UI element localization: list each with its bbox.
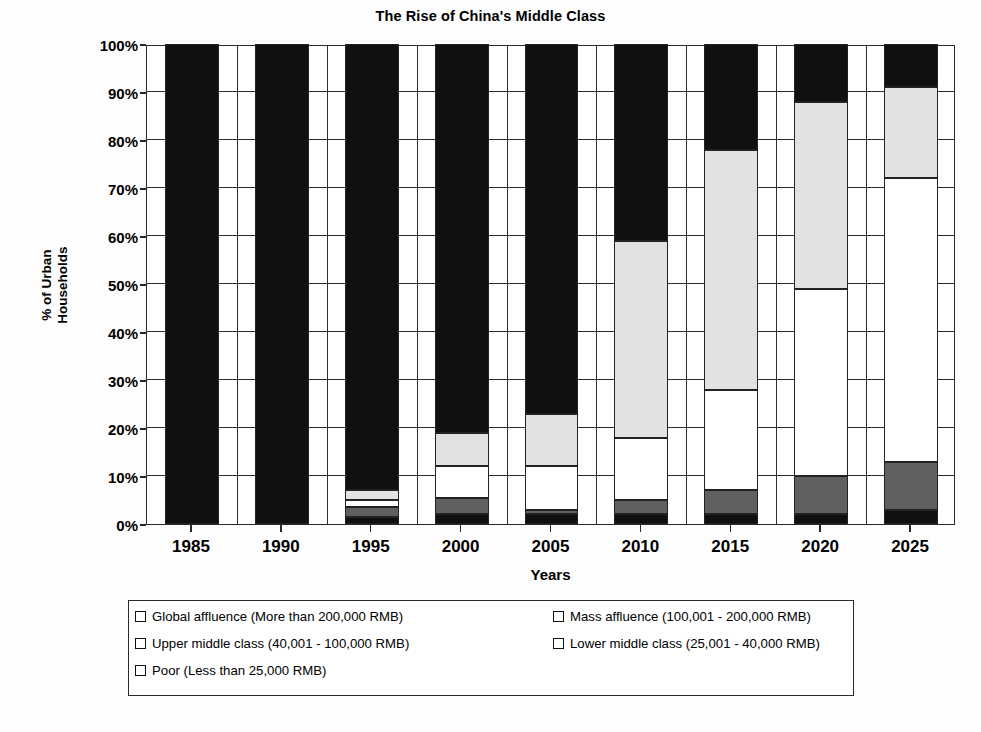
bars-layer	[147, 46, 954, 524]
x-axis-tick-label: 2000	[442, 537, 480, 557]
x-axis-tick-label: 1995	[352, 537, 390, 557]
bar-segment-upper_middle[interactable]	[884, 178, 938, 461]
bar-segment-poor[interactable]	[704, 514, 758, 524]
x-axis-tick-mark	[190, 525, 192, 532]
bar-segment-global_affluence[interactable]	[704, 44, 758, 150]
y-axis-tick-mark	[140, 284, 146, 286]
bar-segment-global_affluence[interactable]	[614, 44, 668, 241]
bar-segment-poor[interactable]	[884, 510, 938, 524]
bar-stack[interactable]	[704, 44, 758, 524]
legend-swatch-icon	[553, 638, 564, 649]
bar-segment-mass_affluence[interactable]	[704, 490, 758, 514]
bar-segment-mass_affluence[interactable]	[614, 500, 668, 514]
bar-segment-lower_middle[interactable]	[345, 490, 399, 500]
bar-segment-mass_affluence[interactable]	[345, 507, 399, 517]
legend-item-label: Upper middle class (40,001 - 100,000 RMB…	[152, 636, 409, 651]
bar-segment-global_affluence[interactable]	[794, 44, 848, 102]
bar-segment-lower_middle[interactable]	[704, 150, 758, 390]
bar-segment-lower_middle[interactable]	[614, 241, 668, 438]
y-axis-tick-label: 0%	[116, 517, 138, 534]
bar-stack[interactable]	[165, 44, 219, 524]
bar-segment-mass_affluence[interactable]	[525, 510, 579, 515]
legend-item-label: Lower middle class (25,001 - 40,000 RMB)	[570, 636, 820, 651]
y-axis-tick-label: 60%	[108, 229, 138, 246]
y-axis-title: % of UrbanHouseholds	[39, 210, 72, 360]
bar-stack[interactable]	[255, 44, 309, 524]
bar-stack[interactable]	[345, 44, 399, 524]
y-axis-tick-label: 100%	[100, 37, 138, 54]
y-axis-tick-mark	[140, 380, 146, 382]
x-axis-tick-mark	[460, 525, 462, 532]
y-axis-tick-label: 20%	[108, 421, 138, 438]
legend-swatch-icon	[135, 638, 146, 649]
x-axis-tick-label: 2025	[891, 537, 929, 557]
x-axis-tick-mark	[640, 525, 642, 532]
bar-segment-mass_affluence[interactable]	[435, 498, 489, 515]
chart-container: The Rise of China's Middle Class % of Ur…	[0, 0, 981, 732]
bar-stack[interactable]	[525, 44, 579, 524]
x-axis-title: Years	[146, 566, 955, 583]
bar-segment-poor[interactable]	[794, 514, 848, 524]
x-axis-tick-mark	[819, 525, 821, 532]
legend-item-label: Mass affluence (100,001 - 200,000 RMB)	[570, 609, 811, 624]
y-axis-tick-label: 90%	[108, 85, 138, 102]
y-axis-tick-mark	[140, 92, 146, 94]
bar-segment-upper_middle[interactable]	[614, 438, 668, 500]
legend-swatch-icon	[135, 665, 146, 676]
x-axis-tick-label: 1990	[262, 537, 300, 557]
legend-swatch-icon	[135, 611, 146, 622]
bar-segment-lower_middle[interactable]	[435, 433, 489, 467]
bar-segment-poor[interactable]	[614, 514, 668, 524]
bar-segment-upper_middle[interactable]	[345, 500, 399, 507]
legend-item[interactable]: Lower middle class (25,001 - 40,000 RMB)	[553, 636, 820, 651]
bar-segment-poor[interactable]	[165, 44, 219, 524]
bar-stack[interactable]	[435, 44, 489, 524]
y-axis-tick-mark	[140, 140, 146, 142]
y-axis-tick-mark	[140, 332, 146, 334]
bar-segment-mass_affluence[interactable]	[794, 476, 848, 514]
chart-legend: Global affluence (More than 200,000 RMB)…	[128, 600, 854, 696]
legend-item[interactable]: Global affluence (More than 200,000 RMB)	[135, 609, 403, 624]
bar-segment-upper_middle[interactable]	[435, 466, 489, 497]
y-axis-tick-label: 50%	[108, 277, 138, 294]
legend-swatch-icon	[553, 611, 564, 622]
y-axis-tick-label: 40%	[108, 325, 138, 342]
y-axis-tick-mark	[140, 428, 146, 430]
bar-segment-poor[interactable]	[435, 514, 489, 524]
bar-segment-mass_affluence[interactable]	[884, 462, 938, 510]
bar-segment-upper_middle[interactable]	[704, 390, 758, 491]
x-axis-tick-mark	[730, 525, 732, 532]
bar-segment-global_affluence[interactable]	[525, 44, 579, 414]
bar-segment-lower_middle[interactable]	[525, 414, 579, 467]
bar-segment-global_affluence[interactable]	[435, 44, 489, 433]
bar-segment-global_affluence[interactable]	[345, 44, 399, 490]
y-axis-tick-mark	[140, 44, 146, 46]
y-axis-tick-label: 80%	[108, 133, 138, 150]
bar-stack[interactable]	[614, 44, 668, 524]
chart-title: The Rise of China's Middle Class	[0, 8, 981, 24]
y-axis-tick-mark	[140, 524, 146, 526]
bar-segment-upper_middle[interactable]	[525, 466, 579, 509]
x-axis-tick-label: 2020	[801, 537, 839, 557]
bar-segment-global_affluence[interactable]	[884, 44, 938, 87]
bar-segment-poor[interactable]	[345, 517, 399, 524]
bar-segment-poor[interactable]	[255, 44, 309, 524]
legend-item-label: Global affluence (More than 200,000 RMB)	[152, 609, 403, 624]
bar-segment-lower_middle[interactable]	[794, 102, 848, 289]
legend-item-label: Poor (Less than 25,000 RMB)	[152, 663, 326, 678]
legend-item[interactable]: Mass affluence (100,001 - 200,000 RMB)	[553, 609, 811, 624]
x-axis-tick-label: 1985	[172, 537, 210, 557]
x-axis-tick-mark	[550, 525, 552, 532]
legend-item[interactable]: Poor (Less than 25,000 RMB)	[135, 663, 326, 678]
y-axis-tick-label: 70%	[108, 181, 138, 198]
legend-items: Global affluence (More than 200,000 RMB)…	[129, 601, 853, 695]
bar-stack[interactable]	[794, 44, 848, 524]
bar-segment-upper_middle[interactable]	[794, 289, 848, 476]
legend-item[interactable]: Upper middle class (40,001 - 100,000 RMB…	[135, 636, 409, 651]
bar-segment-poor[interactable]	[525, 514, 579, 524]
x-axis-tick-mark	[280, 525, 282, 532]
bar-stack[interactable]	[884, 44, 938, 524]
bar-segment-lower_middle[interactable]	[884, 87, 938, 178]
y-axis-tick-label: 10%	[108, 469, 138, 486]
y-axis-tick-label: 30%	[108, 373, 138, 390]
